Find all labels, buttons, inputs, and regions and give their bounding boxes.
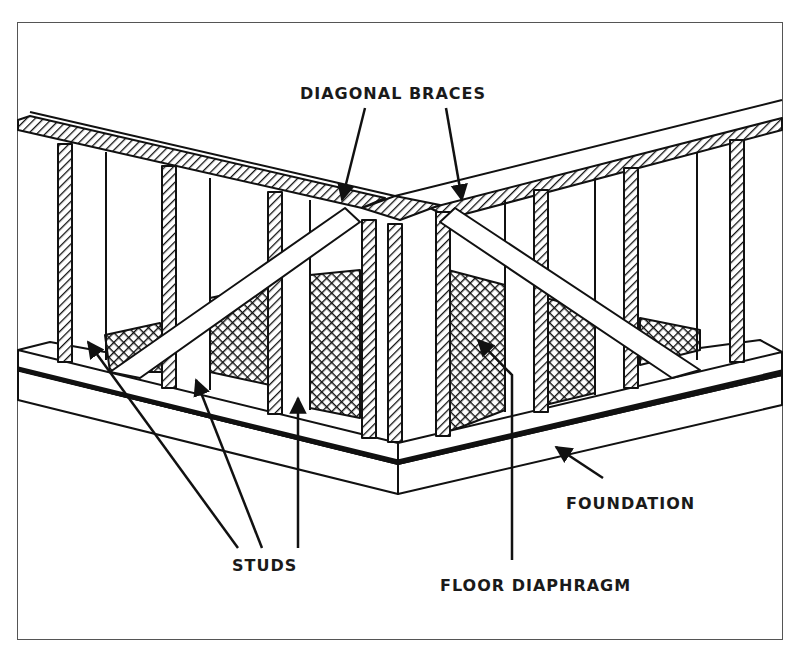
label-floor-diaphragm: FLOOR DIAPHRAGM — [440, 576, 631, 595]
label-diagonal-braces: DIAGONAL BRACES — [300, 84, 486, 103]
label-foundation: FOUNDATION — [566, 494, 695, 513]
diagonal-braces — [110, 208, 700, 378]
label-studs: STUDS — [232, 556, 297, 575]
top-plate-right — [362, 100, 782, 220]
top-plate-left — [18, 112, 395, 208]
